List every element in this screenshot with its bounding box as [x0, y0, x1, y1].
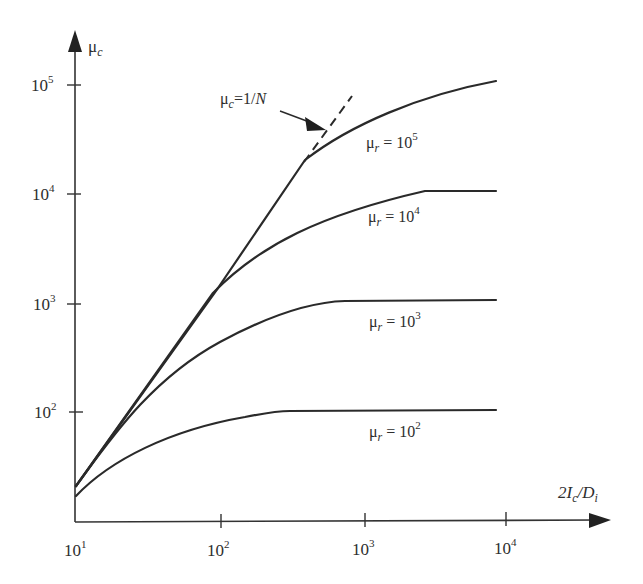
x-axis [75, 520, 598, 522]
y-tick-label-1e5: 105 [31, 73, 54, 95]
label-mu-r-1e3: μr = 103 [369, 309, 421, 334]
y-axis-title: μc [88, 37, 103, 59]
x-axis-title: 2Ic/Di [558, 483, 598, 505]
curve-mu-r-1e3 [76, 300, 496, 486]
x-tick-label-1e3: 103 [352, 537, 375, 559]
x-tick-label-1e4: 104 [494, 536, 517, 558]
x-tick-label-1e1: 101 [64, 538, 87, 560]
y-tick-label-1e4: 104 [32, 182, 55, 204]
y-tick-label-1e3: 103 [33, 292, 56, 314]
curve-mu-r-1e2 [76, 410, 496, 496]
annotation-mu-c-1-over-n: μc=1/N [220, 90, 267, 111]
annotation-arrow-head-icon [305, 117, 326, 131]
x-tick-label-1e2: 102 [207, 538, 230, 560]
curve-mu-r-1e4 [76, 191, 496, 486]
label-mu-r-1e5: μr = 105 [366, 130, 418, 155]
chart: 105 104 103 102 101 102 103 104 μc 2Ic/D… [0, 0, 643, 584]
label-mu-r-1e4: μr = 104 [368, 204, 420, 229]
y-tick-label-1e2: 102 [34, 400, 57, 422]
label-mu-r-1e2: μr = 102 [369, 419, 421, 444]
y-axis-arrow-icon [68, 30, 82, 52]
curve-mu-r-1e5 [76, 81, 496, 486]
x-axis-arrow-icon [589, 513, 611, 528]
